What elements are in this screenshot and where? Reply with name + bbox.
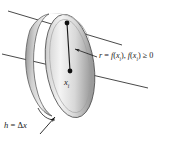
thickness-variable-x: x — [23, 120, 27, 130]
thickness-label: h = Δx — [4, 121, 27, 130]
center-subscript-i: i — [68, 83, 69, 89]
greater-equal-zero: ≥ 0 — [141, 51, 154, 60]
center-point-label: xi — [64, 78, 69, 89]
radius-equals: = — [102, 51, 111, 60]
radius-label: r = f(xi), f(xi) ≥ 0 — [99, 52, 153, 62]
center-point-dot — [68, 69, 73, 74]
disk-volume-diagram: r = f(xi), f(xi) ≥ 0 xi h = Δx — [0, 0, 170, 143]
thickness-leader-arrow — [40, 117, 55, 134]
radius-endpoint-dot — [65, 21, 70, 26]
